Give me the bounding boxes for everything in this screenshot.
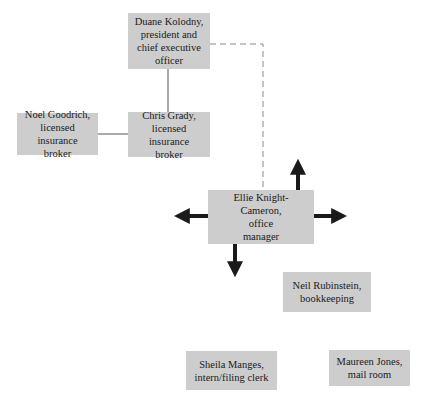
node-ellie-knight-cameron: Ellie Knight- Cameron, office manager (208, 190, 314, 244)
node-line: broker (21, 147, 94, 160)
node-chris-grady: Chris Grady, licensed insurance broker (128, 112, 210, 157)
node-line: broker (132, 148, 206, 161)
node-maureen-jones: Maureen Jones, mail room (329, 350, 410, 386)
node-line: Chris Grady, (132, 109, 206, 122)
node-noel-goodrich: Noel Goodrich, licensed insurance broker (17, 113, 98, 155)
node-line: licensed insurance (132, 122, 206, 148)
node-line: licensed insurance (21, 121, 94, 147)
node-line: chief executive (135, 41, 204, 54)
node-line: Sheila Manges, (195, 358, 269, 371)
node-sheila-manges: Sheila Manges, intern/filing clerk (186, 351, 277, 390)
node-line: Neil Rubinstein, (293, 279, 362, 292)
node-line: Ellie Knight- (233, 191, 288, 204)
node-line: bookkeeping (293, 292, 362, 305)
node-line: mail room (337, 368, 403, 381)
node-line: Noel Goodrich, (21, 108, 94, 121)
node-line: Duane Kolodny, (135, 15, 204, 28)
node-line: officer (135, 54, 204, 67)
org-chart-canvas: Duane Kolodny, president and chief execu… (0, 0, 427, 404)
node-neil-rubinstein: Neil Rubinstein, bookkeeping (283, 272, 371, 312)
node-line: Cameron, (233, 204, 288, 217)
connector-duane-ellie-dashed (210, 44, 263, 190)
node-line: president and (135, 28, 204, 41)
node-line: intern/filing clerk (195, 371, 269, 384)
node-line: Maureen Jones, (337, 355, 403, 368)
node-duane-kolodny: Duane Kolodny, president and chief execu… (128, 13, 210, 69)
node-line: office (233, 217, 288, 230)
node-line: manager (233, 230, 288, 243)
